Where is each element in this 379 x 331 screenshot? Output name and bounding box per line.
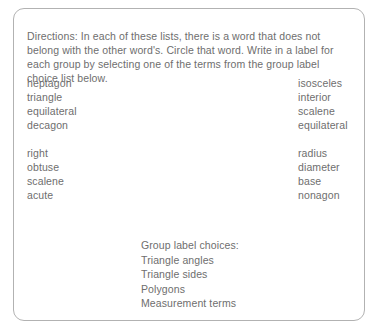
list-item[interactable]: interior xyxy=(298,90,348,104)
word-group-left-2: right obtuse scalene acute xyxy=(27,146,77,202)
list-item[interactable]: scalene xyxy=(298,104,348,118)
list-item[interactable]: obtuse xyxy=(27,160,77,174)
list-item[interactable]: Polygons xyxy=(141,282,239,297)
list-item[interactable]: Triangle angles xyxy=(141,253,239,268)
word-group-right-1: isosceles interior scalene equilateral xyxy=(298,76,348,132)
worksheet-panel: Directions: In each of these lists, ther… xyxy=(13,8,365,321)
group-label-choices-list: Triangle angles Triangle sides Polygons … xyxy=(141,253,239,311)
word-list-column-right: isosceles interior scalene equilateral r… xyxy=(298,76,348,202)
list-item[interactable]: triangle xyxy=(27,90,77,104)
group-label-choices-heading: Group label choices: xyxy=(141,238,239,253)
list-item[interactable]: equilateral xyxy=(27,104,77,118)
list-item[interactable]: Triangle sides xyxy=(141,267,239,282)
list-item[interactable]: equilateral xyxy=(298,118,348,132)
list-item[interactable]: right xyxy=(27,146,77,160)
worksheet-content: Directions: In each of these lists, ther… xyxy=(14,9,364,320)
group-label-choices: Group label choices: Triangle angles Tri… xyxy=(141,238,239,311)
word-group-left-1: heptagon triangle equilateral decagon xyxy=(27,76,77,132)
list-item[interactable]: decagon xyxy=(27,118,77,132)
list-item[interactable]: acute xyxy=(27,188,77,202)
list-item[interactable]: Measurement terms xyxy=(141,296,239,311)
list-item[interactable]: scalene xyxy=(27,174,77,188)
list-item[interactable]: nonagon xyxy=(298,188,348,202)
list-item[interactable]: radius xyxy=(298,146,348,160)
word-list-column-left: heptagon triangle equilateral decagon ri… xyxy=(27,76,77,202)
list-item[interactable]: base xyxy=(298,174,348,188)
list-item[interactable]: heptagon xyxy=(27,76,77,90)
word-group-right-2: radius diameter base nonagon xyxy=(298,146,348,202)
list-item[interactable]: isosceles xyxy=(298,76,348,90)
list-item[interactable]: diameter xyxy=(298,160,348,174)
